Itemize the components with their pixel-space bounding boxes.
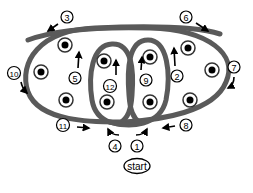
- bullseye-dot: [143, 50, 157, 64]
- svg-text:2: 2: [174, 72, 179, 82]
- step-label-11: 11: [57, 119, 70, 132]
- start-label: start: [127, 161, 147, 172]
- arrow-step-4: [108, 129, 119, 135]
- step-label-10: 10: [8, 67, 21, 80]
- svg-text:11: 11: [59, 122, 68, 131]
- svg-text:3: 3: [64, 13, 69, 23]
- svg-text:6: 6: [183, 13, 188, 23]
- bullseye-dot: [181, 41, 195, 55]
- svg-text:4: 4: [112, 142, 117, 152]
- bullseye-dot: [205, 63, 219, 77]
- bullseye-dot: [34, 65, 48, 79]
- inner-right-loop: [110, 40, 168, 125]
- arrow-step-11: [77, 127, 89, 128]
- bullseye-dot: [59, 93, 73, 107]
- start-marker: start: [124, 159, 150, 174]
- step-label-7: 7: [228, 61, 240, 73]
- path-diagram: 3 6 10 7 5 2 12 9 11 8 4 1 start: [0, 0, 253, 193]
- svg-text:5: 5: [72, 74, 77, 84]
- svg-text:12: 12: [106, 83, 115, 92]
- arrow-step-5: [78, 52, 79, 68]
- arrow-step-1: [136, 129, 147, 135]
- svg-text:7: 7: [231, 63, 236, 73]
- arrow-step-9: [141, 57, 142, 70]
- arrow-step-8: [163, 126, 175, 128]
- svg-text:9: 9: [143, 76, 148, 86]
- step-label-8: 8: [180, 119, 192, 131]
- step-label-12: 12: [104, 80, 117, 93]
- step-label-9: 9: [140, 74, 152, 86]
- bullseye-dot: [183, 93, 197, 107]
- arrow-step-2: [174, 48, 175, 66]
- step-label-5: 5: [69, 72, 81, 84]
- bullseye-dot: [143, 95, 157, 109]
- step-label-6: 6: [180, 11, 192, 23]
- step-label-3: 3: [61, 11, 73, 23]
- arrow-step-3: [48, 24, 58, 31]
- bullseye-dot: [58, 38, 72, 52]
- svg-text:10: 10: [10, 70, 19, 79]
- bullseye-dot: [100, 95, 114, 109]
- step-label-1: 1: [131, 140, 143, 152]
- bullseye-dot: [97, 54, 111, 68]
- step-label-4: 4: [109, 140, 121, 152]
- svg-text:1: 1: [134, 142, 139, 152]
- svg-text:8: 8: [183, 121, 188, 131]
- step-label-2: 2: [171, 70, 183, 82]
- loops: [26, 27, 229, 125]
